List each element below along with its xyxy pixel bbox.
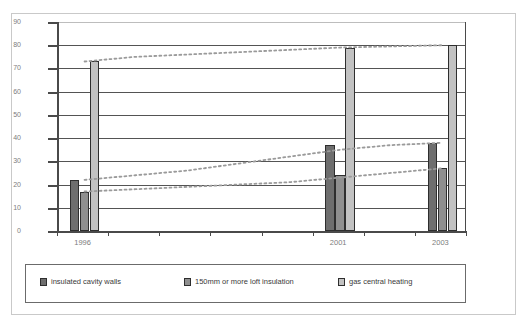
y-axis-tick <box>48 185 57 187</box>
bar <box>438 168 448 231</box>
gridline <box>59 138 465 139</box>
y-axis-tick-label: 60 <box>0 88 21 95</box>
y-axis-tick <box>48 45 57 47</box>
x-axis-tick-label: 2001 <box>318 239 358 247</box>
bar <box>448 45 458 231</box>
x-axis-tick <box>57 231 58 236</box>
bar <box>70 180 80 231</box>
legend-item: 150mm or more loft insulation <box>184 277 294 286</box>
bar <box>428 143 438 231</box>
bar <box>90 61 100 231</box>
legend-swatch-icon <box>40 278 47 286</box>
gridline <box>59 185 465 186</box>
y-axis-tick <box>48 115 57 117</box>
chart-plot-wrapper: 0102030405060708090 199620012003 <box>24 9 479 247</box>
legend-label: gas central heating <box>349 277 412 286</box>
bar <box>80 192 90 231</box>
plot-area <box>57 22 466 231</box>
legend-item: gas central heating <box>338 277 412 286</box>
y-axis-tick-label: 80 <box>0 41 21 48</box>
x-axis-tick <box>466 231 467 236</box>
x-axis-tick <box>262 231 263 236</box>
gridline <box>59 115 465 116</box>
y-axis-tick-label: 20 <box>0 181 21 188</box>
legend-label: 150mm or more loft insulation <box>195 277 294 286</box>
y-axis-tick <box>48 92 57 94</box>
legend-label: insulated cavity walls <box>51 277 121 286</box>
chart-legend: insulated cavity walls150mm or more loft… <box>25 264 466 303</box>
x-axis-tick-label: 2003 <box>420 239 460 247</box>
gridline <box>59 22 465 23</box>
trend-lines <box>59 22 468 231</box>
y-axis-tick-label: 70 <box>0 64 21 71</box>
y-axis-tick <box>48 68 57 70</box>
x-axis-tick-label: 1996 <box>63 239 103 247</box>
trend-line <box>85 168 443 191</box>
chart-screenshot: 0102030405060708090 199620012003 insulat… <box>0 0 529 329</box>
y-axis-tick-label: 30 <box>0 157 21 164</box>
legend-swatch-icon <box>184 278 191 286</box>
x-axis-tick <box>108 231 109 236</box>
x-axis-tick <box>210 231 211 236</box>
y-axis-tick-label: 10 <box>0 204 21 211</box>
gridline <box>59 68 465 69</box>
x-axis-tick <box>364 231 365 236</box>
bar <box>345 48 355 231</box>
bar <box>325 145 335 231</box>
gridline <box>59 161 465 162</box>
y-axis-tick <box>48 161 57 163</box>
y-axis-tick-label: 0 <box>0 227 21 234</box>
y-axis-tick <box>48 208 57 210</box>
gridline <box>59 45 465 46</box>
legend-item: insulated cavity walls <box>40 277 121 286</box>
x-axis-tick <box>313 231 314 236</box>
legend-swatch-icon <box>338 278 345 286</box>
y-axis-tick-label: 90 <box>0 18 21 25</box>
y-axis-tick-label: 50 <box>0 111 21 118</box>
trend-line <box>85 45 443 61</box>
y-axis-tick <box>48 138 57 140</box>
y-axis-tick <box>48 22 57 24</box>
x-axis-tick <box>159 231 160 236</box>
y-axis-tick <box>48 231 57 233</box>
y-axis-tick-label: 40 <box>0 134 21 141</box>
x-axis-tick <box>415 231 416 236</box>
bar <box>335 175 345 231</box>
gridline <box>59 92 465 93</box>
gridline <box>59 208 465 209</box>
